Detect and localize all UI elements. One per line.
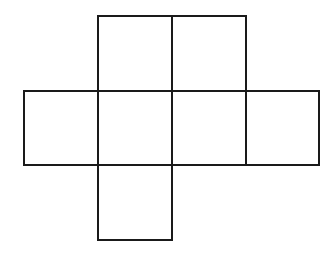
net-square-middle-2 xyxy=(97,90,173,166)
net-square-middle-3 xyxy=(171,90,247,166)
cube-net-diagram xyxy=(0,0,331,255)
net-square-top-right xyxy=(171,15,247,92)
net-square-top-left xyxy=(97,15,173,92)
net-square-middle-1 xyxy=(23,90,99,166)
net-square-middle-4 xyxy=(245,90,320,166)
net-square-bottom xyxy=(97,164,173,241)
